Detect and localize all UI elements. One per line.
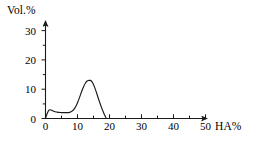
y-tick-label-10: 10 xyxy=(14,84,36,95)
x-axis-ticks xyxy=(46,114,206,118)
chart-plot-area xyxy=(0,0,256,156)
x-tick-label-30: 30 xyxy=(131,121,153,132)
x-tick-label-10: 10 xyxy=(67,121,89,132)
y-tick-label-0: 0 xyxy=(14,114,36,125)
chart-container: Vol.% HA% 30 20 10 0 0 10 20 30 40 50 xyxy=(0,0,256,156)
axes-group xyxy=(46,21,208,119)
x-tick-label-40: 40 xyxy=(163,121,185,132)
y-tick-label-20: 20 xyxy=(14,55,36,66)
x-tick-label-20: 20 xyxy=(99,121,121,132)
x-tick-label-0: 0 xyxy=(35,121,57,132)
y-tick-label-30: 30 xyxy=(14,26,36,37)
x-tick-label-50: 50 xyxy=(195,121,217,132)
distribution-curve xyxy=(46,80,107,118)
x-axis-title: HA% xyxy=(215,121,242,133)
y-axis-title: Vol.% xyxy=(7,5,36,17)
y-axis-ticks xyxy=(42,31,46,119)
